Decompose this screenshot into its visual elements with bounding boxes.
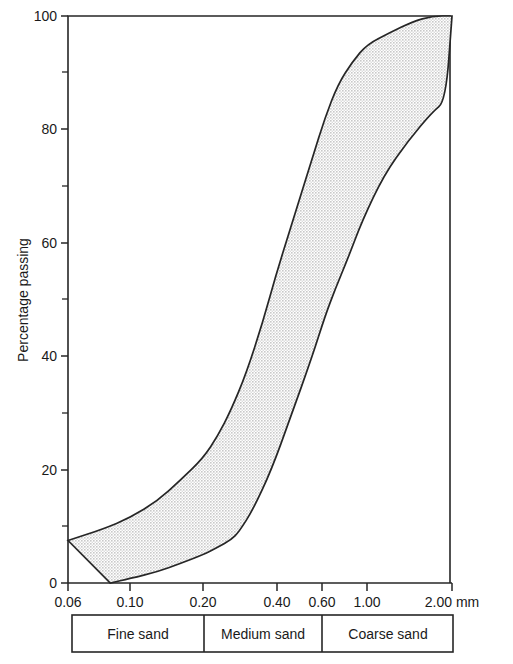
y-axis-minor-ticks	[62, 72, 68, 526]
x-axis-tick-labels: 0.06 0.10 0.20 0.40 0.60 1.00 2.00 mm	[54, 594, 479, 610]
y-tick-label: 100	[34, 8, 58, 24]
y-tick-label: 40	[41, 348, 57, 364]
x-tick-label: 0.20	[189, 594, 216, 610]
x-axis-ticks	[68, 583, 452, 591]
x-tick-label: 0.40	[263, 594, 290, 610]
y-tick-label: 60	[41, 235, 57, 251]
grading-curve-chart: 100 80 60 40 20 0 Percentage passing 0.0…	[0, 0, 513, 664]
classification-label-medium-sand: Medium sand	[221, 626, 305, 642]
sand-classification-bar: Fine sand Medium sand Coarse sand	[72, 615, 453, 652]
x-tick-label: 0.06	[54, 594, 81, 610]
x-tick-label-last: 2.00 mm	[425, 594, 479, 610]
x-tick-label: 1.00	[353, 594, 380, 610]
y-tick-label: 80	[41, 121, 57, 137]
y-axis-title: Percentage passing	[15, 238, 31, 362]
x-tick-label: 0.10	[116, 594, 143, 610]
y-tick-label: 0	[49, 575, 57, 591]
classification-label-coarse-sand: Coarse sand	[348, 626, 427, 642]
chart-page: 100 80 60 40 20 0 Percentage passing 0.0…	[0, 0, 513, 664]
y-tick-label: 20	[41, 462, 57, 478]
x-tick-label: 0.60	[308, 594, 335, 610]
y-axis-tick-labels: 100 80 60 40 20 0	[34, 8, 58, 591]
classification-label-fine-sand: Fine sand	[107, 626, 168, 642]
grading-band	[68, 16, 452, 583]
